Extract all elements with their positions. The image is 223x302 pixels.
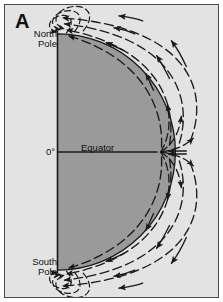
figure-frame: A North Pole 0° Equator South Pole: [4, 4, 219, 298]
south-pole-label: South Pole: [9, 257, 57, 277]
equator-label: Equator: [81, 143, 114, 153]
zero-degree-label: 0°: [29, 147, 55, 157]
north-pole-label: North Pole: [9, 29, 57, 49]
figure-root: A North Pole 0° Equator South Pole: [0, 0, 223, 302]
